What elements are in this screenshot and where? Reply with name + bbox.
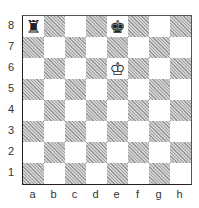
- square-g6: [149, 58, 170, 79]
- square-d6: [86, 58, 107, 79]
- rank-label-6: 6: [6, 61, 16, 73]
- square-c6: [65, 58, 86, 79]
- square-f3: [128, 121, 149, 142]
- file-label-c: c: [64, 188, 85, 200]
- square-e2: [107, 142, 128, 163]
- square-h1: [170, 163, 191, 184]
- square-h5: [170, 79, 191, 100]
- square-f2: [128, 142, 149, 163]
- square-d3: [86, 121, 107, 142]
- square-a1: [23, 163, 44, 184]
- file-label-e: e: [106, 188, 127, 200]
- square-d8: [86, 16, 107, 37]
- square-d5: [86, 79, 107, 100]
- chessboard: ♜♚♔: [22, 15, 192, 185]
- rank-label-3: 3: [6, 124, 16, 136]
- square-e5: [107, 79, 128, 100]
- square-e3: [107, 121, 128, 142]
- square-f6: [128, 58, 149, 79]
- square-b8: [44, 16, 65, 37]
- rank-label-8: 8: [6, 19, 16, 31]
- square-f8: [128, 16, 149, 37]
- rank-label-5: 5: [6, 82, 16, 94]
- square-h4: [170, 100, 191, 121]
- square-h3: [170, 121, 191, 142]
- square-d1: [86, 163, 107, 184]
- square-b4: [44, 100, 65, 121]
- square-a6: [23, 58, 44, 79]
- square-c5: [65, 79, 86, 100]
- square-f4: [128, 100, 149, 121]
- black-king-icon: ♚: [107, 16, 128, 37]
- square-d7: [86, 37, 107, 58]
- square-c7: [65, 37, 86, 58]
- file-label-a: a: [22, 188, 43, 200]
- square-a5: [23, 79, 44, 100]
- square-g1: [149, 163, 170, 184]
- square-h6: [170, 58, 191, 79]
- square-a4: [23, 100, 44, 121]
- square-b3: [44, 121, 65, 142]
- square-b5: [44, 79, 65, 100]
- square-e7: [107, 37, 128, 58]
- square-a7: [23, 37, 44, 58]
- file-label-b: b: [43, 188, 64, 200]
- white-king-icon: ♔: [107, 58, 128, 79]
- square-a2: [23, 142, 44, 163]
- file-label-f: f: [127, 188, 148, 200]
- square-g8: [149, 16, 170, 37]
- rank-label-1: 1: [6, 166, 16, 178]
- square-c3: [65, 121, 86, 142]
- rank-label-7: 7: [6, 40, 16, 52]
- square-b7: [44, 37, 65, 58]
- square-g5: [149, 79, 170, 100]
- square-f1: [128, 163, 149, 184]
- square-c8: [65, 16, 86, 37]
- square-g3: [149, 121, 170, 142]
- file-label-d: d: [85, 188, 106, 200]
- square-e4: [107, 100, 128, 121]
- rank-label-2: 2: [6, 145, 16, 157]
- square-g7: [149, 37, 170, 58]
- black-rook-icon: ♜: [23, 16, 44, 37]
- square-g4: [149, 100, 170, 121]
- square-c1: [65, 163, 86, 184]
- square-h2: [170, 142, 191, 163]
- square-g2: [149, 142, 170, 163]
- square-f5: [128, 79, 149, 100]
- square-c4: [65, 100, 86, 121]
- square-b1: [44, 163, 65, 184]
- square-c2: [65, 142, 86, 163]
- square-a3: [23, 121, 44, 142]
- file-label-g: g: [148, 188, 169, 200]
- square-b6: [44, 58, 65, 79]
- square-e1: [107, 163, 128, 184]
- square-h7: [170, 37, 191, 58]
- square-h8: [170, 16, 191, 37]
- square-d2: [86, 142, 107, 163]
- square-b2: [44, 142, 65, 163]
- rank-label-4: 4: [6, 103, 16, 115]
- square-d4: [86, 100, 107, 121]
- file-label-h: h: [169, 188, 190, 200]
- square-f7: [128, 37, 149, 58]
